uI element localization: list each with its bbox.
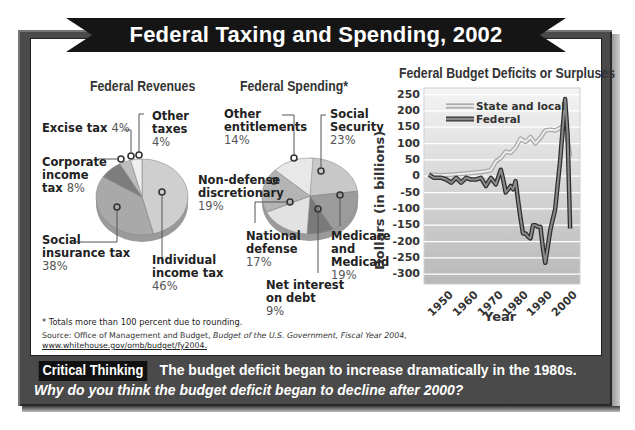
label-social-insurance-tax: Social insurance tax 38% (42, 234, 130, 273)
y-tick-label: -300 (388, 267, 420, 280)
label-national-defense: National defense 17% (246, 230, 301, 269)
source-link[interactable]: www.whitehouse.gov/omb/budget/fy2004. (42, 341, 207, 350)
x-axis-label: Year (484, 309, 516, 324)
legend-state-local: State and local (476, 100, 565, 112)
deficit-chart-title: Federal Budget Deficits or Surpluses (399, 64, 615, 81)
y-tick-label: -250 (388, 251, 420, 264)
y-tick-label: 100 (388, 137, 420, 150)
critical-thinking-question: Why do you think the budget deficit bega… (34, 382, 463, 398)
banner-ribbon-right (540, 18, 566, 52)
y-tick-label: -100 (388, 202, 420, 215)
frame-bevel-bottom (22, 406, 620, 412)
label-pct: 38% (42, 260, 130, 273)
y-tick-label: 250 (388, 88, 420, 101)
label-text: tax (42, 181, 63, 195)
revenues-title: Federal Revenues (90, 77, 195, 94)
label-pct: 4% (152, 136, 189, 149)
label-excise-tax: Excise tax 4% (42, 122, 130, 135)
page-title: Federal Taxing and Spending, 2002 (92, 18, 540, 52)
source-prefix: Source: Office of Management and Budget, (42, 331, 211, 340)
critical-thinking-badge: Critical Thinking (39, 361, 147, 381)
label-other-entitlements: Other entitlements 14% (224, 108, 307, 147)
frame-bevel-right (612, 34, 620, 406)
label-text: Excise tax (42, 121, 107, 135)
pie-slice (310, 158, 358, 196)
y-tick-label: -200 (388, 235, 420, 248)
label-other-taxes: Other taxes 4% (152, 110, 189, 149)
y-tick-label: 0 (388, 169, 420, 182)
label-individual-income-tax: Individual income tax 46% (152, 254, 223, 293)
label-corporate-income-tax: Corporate income tax 8% (42, 156, 107, 195)
source-title: Budget of the U.S. Government, Fiscal Ye… (213, 331, 407, 340)
label-pct: 8% (67, 181, 85, 195)
y-tick-label: -150 (388, 218, 420, 231)
label-pct: 9% (266, 305, 344, 318)
y-tick-label: -50 (388, 186, 420, 199)
label-pct: 17% (246, 256, 301, 269)
label-pct: 19% (198, 200, 284, 213)
y-axis-label: Dollars (in billions) (372, 131, 387, 270)
label-pct: 4% (111, 121, 129, 135)
label-net-interest: Net interest on debt 9% (266, 279, 344, 318)
spending-title: Federal Spending* (240, 77, 348, 94)
label-pct: 14% (224, 134, 307, 147)
label-non-defense-discretionary: Non-defense discretionary 19% (198, 174, 284, 213)
footnote: * Totals more than 100 percent due to ro… (42, 317, 242, 327)
y-tick-label: 150 (388, 120, 420, 133)
y-tick-label: 200 (388, 104, 420, 117)
legend-federal: Federal (476, 113, 520, 125)
critical-thinking-box: Critical Thinking The budget deficit beg… (34, 361, 602, 400)
source-citation: Source: Office of Management and Budget,… (42, 331, 407, 351)
critical-thinking-statement: The budget deficit began to increase dra… (160, 362, 577, 378)
y-tick-label: 50 (388, 153, 420, 166)
banner-ribbon-left (66, 18, 92, 52)
label-pct: 46% (152, 280, 223, 293)
